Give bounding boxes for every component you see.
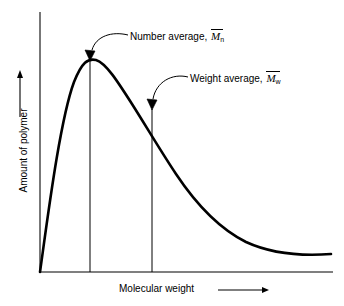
annotation-number-average-label: Number average, [130,31,207,42]
x-axis-arrowhead-icon [262,287,269,293]
annotation-number-average-subscript: n [220,36,224,43]
annotation-number-average-symbol: Mn [210,30,224,42]
weight-average-arrowhead-icon [147,99,157,110]
weight-average-leader-line [153,76,188,99]
x-axis-label: Molecular weight [119,283,194,294]
distribution-curve [40,60,331,272]
annotation-weight-average-subscript: w [276,78,281,85]
annotation-number-average: Number average, Mn [130,30,224,46]
annotation-weight-average-symbol: Mw [265,72,280,84]
number-average-leader-line [92,34,128,50]
polymer-distribution-figure: Number average, Mn Weight average, Mw Mo… [0,0,344,306]
annotation-weight-average-label: Weight average, [190,73,263,84]
y-axis-label: Amount of polymer [18,81,29,221]
y-axis-arrowhead-icon [17,70,23,78]
annotation-weight-average: Weight average, Mw [190,72,281,88]
